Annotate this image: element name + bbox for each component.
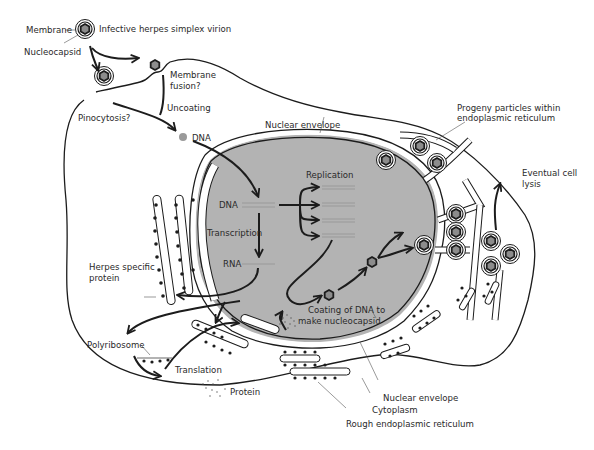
- label-rough-er: Rough endoplasmic reticulum: [346, 419, 474, 429]
- label-coating-1: Coating of DNA to: [308, 305, 385, 315]
- label-transcription: Transcription: [206, 228, 262, 238]
- label-translation: Translation: [174, 365, 222, 375]
- herpes-replication-diagram: Infective herpes simplex virion Membrane…: [0, 0, 594, 450]
- label-lysis-1: Eventual cell: [522, 168, 577, 178]
- label-nucleocapsid: Nucleocapsid: [24, 47, 81, 57]
- label-polyribosome: Polyribosome: [87, 340, 145, 350]
- label-pinocytosis: Pinocytosis?: [78, 113, 130, 123]
- label-membrane-fusion-2: fusion?: [170, 81, 201, 91]
- protein-dots: [202, 379, 225, 396]
- label-replication: Replication: [306, 170, 354, 180]
- label-uncoating: Uncoating: [167, 103, 211, 113]
- label-progeny-1: Progeny particles within: [457, 103, 560, 113]
- dna-uncoated: [179, 133, 187, 141]
- capsid-2: [368, 257, 377, 267]
- label-protein: Protein: [230, 387, 260, 397]
- label-herpes-protein-1: Herpes specific: [89, 262, 155, 272]
- label-nuclear-envelope-bottom: Nuclear envelope: [383, 393, 458, 403]
- label-membrane-fusion-1: Membrane: [170, 70, 216, 80]
- label-cytoplasm: Cytoplasm: [372, 405, 418, 415]
- label-virion: Infective herpes simplex virion: [99, 24, 231, 34]
- label-nuclear-envelope-top: Nuclear envelope: [265, 120, 340, 130]
- label-herpes-protein-2: protein: [89, 273, 120, 283]
- polyribosome: [137, 358, 172, 364]
- label-lysis-2: lysis: [522, 179, 541, 189]
- label-membrane: Membrane: [26, 25, 72, 35]
- label-rna: RNA: [223, 259, 241, 269]
- label-dna-cytoplasm: DNA: [192, 133, 211, 143]
- label-dna-nucleus: DNA: [219, 200, 238, 210]
- capsid-1: [325, 290, 334, 300]
- label-coating-2: make nucleocapsid: [298, 316, 381, 326]
- label-progeny-2: endoplasmic reticulum: [457, 113, 555, 123]
